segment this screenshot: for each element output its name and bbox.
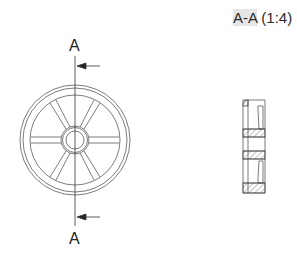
rim-hatch-bottom — [243, 183, 265, 193]
hub-hatch-upper — [243, 129, 265, 137]
section-view-a-a — [243, 100, 265, 193]
hub-hatch-lower — [243, 151, 265, 159]
arrow-bottom-icon — [77, 214, 86, 220]
cut-label-top: A — [69, 38, 80, 54]
section-id: A-A — [233, 9, 257, 26]
arrow-top-icon — [77, 63, 86, 69]
section-title: A-A (1:4) — [233, 9, 292, 27]
wheel-drawing-canvas — [0, 0, 297, 255]
section-scale: (1:4) — [261, 9, 292, 26]
cut-label-bottom: A — [69, 231, 80, 247]
technical-drawing: A-A (1:4) A A — [0, 0, 297, 255]
